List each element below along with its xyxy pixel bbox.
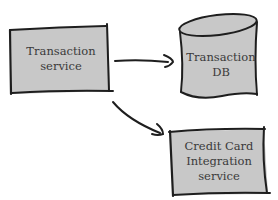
- architecture-diagram: Transaction service Transaction DB Credi…: [0, 0, 278, 200]
- label-line: Credit Card: [172, 139, 266, 154]
- label-line: DB: [183, 65, 259, 80]
- arrow-to-credit-card-service: [113, 102, 163, 135]
- label-line: Integration: [172, 154, 266, 169]
- credit-card-service-label: Credit Card Integration service: [172, 139, 266, 184]
- label-line: Transaction: [14, 44, 108, 59]
- transaction-service-label: Transaction service: [14, 44, 108, 74]
- arrow-to-transaction-db: [115, 55, 173, 67]
- label-line: service: [14, 59, 108, 74]
- label-line: service: [172, 169, 266, 184]
- transaction-db-label: Transaction DB: [183, 50, 259, 80]
- label-line: Transaction: [183, 50, 259, 65]
